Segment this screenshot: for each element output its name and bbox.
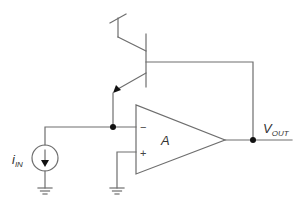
ground-icon — [38, 188, 52, 194]
junction-node-output — [250, 137, 256, 143]
current-arrow-icon — [41, 160, 49, 167]
bjt-transistor — [110, 14, 146, 93]
collector-lead — [118, 37, 146, 51]
noninverting-sign: + — [140, 147, 146, 159]
gain-label: A — [160, 133, 170, 148]
noninverting-input-wire — [117, 152, 136, 188]
circuit-diagram: iIN − + A VOUT — [0, 0, 307, 202]
vout-label: VOUT — [263, 121, 290, 138]
iin-label: iIN — [12, 152, 23, 169]
feedback-wire — [146, 62, 253, 140]
junction-node-input — [110, 124, 116, 130]
inverting-sign: − — [140, 121, 146, 133]
emitter-lead — [118, 73, 146, 89]
inverting-input-wire — [45, 127, 136, 145]
opamp: − + A — [136, 105, 225, 174]
ground-icon — [110, 188, 124, 194]
emitter-arrow-icon — [113, 85, 121, 93]
current-source — [32, 145, 58, 188]
